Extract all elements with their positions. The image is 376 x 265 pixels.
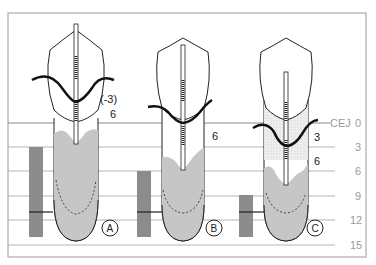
probe-c xyxy=(284,72,288,185)
scale-tick-0: 0 xyxy=(355,117,361,129)
probe-b xyxy=(181,45,185,170)
attachment-bar-c xyxy=(239,195,253,237)
tooth-c-label: C xyxy=(312,223,319,234)
annotation-b-depth: 6 xyxy=(212,130,218,142)
scale-tick-9: 9 xyxy=(355,190,361,202)
tooth-b-label: B xyxy=(211,223,218,234)
annotation-a-recession: (-3) xyxy=(100,93,117,105)
annotation-c-recession: 3 xyxy=(314,131,320,143)
scale-tick-12: 12 xyxy=(350,214,362,226)
bone-a xyxy=(54,129,98,241)
periodontal-diagram: CEJ 0 3 6 9 12 15 (-3) 6 A xyxy=(0,0,376,265)
cej-label: CEJ xyxy=(330,117,351,129)
attachment-bar-a xyxy=(29,147,43,237)
scale-tick-15: 15 xyxy=(350,239,362,251)
annotation-c-depth: 6 xyxy=(314,155,320,167)
annotation-a-depth: 6 xyxy=(110,108,116,120)
probe-a xyxy=(74,24,78,144)
tooth-a-label: A xyxy=(107,223,114,234)
scale-tick-6: 6 xyxy=(355,165,361,177)
scale-tick-3: 3 xyxy=(355,141,361,153)
attachment-bar-b xyxy=(137,171,151,237)
